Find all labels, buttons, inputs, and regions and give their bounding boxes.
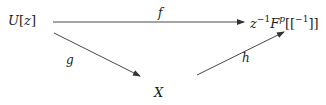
- target-F: F: [270, 16, 279, 31]
- node-target-laurent: z−1Fp[[−1]]: [250, 15, 319, 30]
- edge-label-h: h: [242, 52, 250, 64]
- node-source-U-z: U[z]: [8, 14, 36, 27]
- source-var: z: [24, 13, 31, 28]
- edge-label-f: f: [158, 7, 162, 19]
- target-inner-exponent: −1: [295, 14, 308, 24]
- source-close-bracket: ]: [31, 13, 36, 28]
- target-open-brackets: [[: [285, 16, 295, 31]
- edge-label-g: g: [66, 54, 74, 66]
- arrow-h: [197, 32, 284, 75]
- target-z-exponent: −1: [257, 14, 270, 24]
- source-base: U: [8, 13, 19, 28]
- node-middle-X: X: [154, 86, 163, 99]
- target-close-brackets: ]]: [308, 16, 318, 31]
- target-z: z: [250, 16, 257, 31]
